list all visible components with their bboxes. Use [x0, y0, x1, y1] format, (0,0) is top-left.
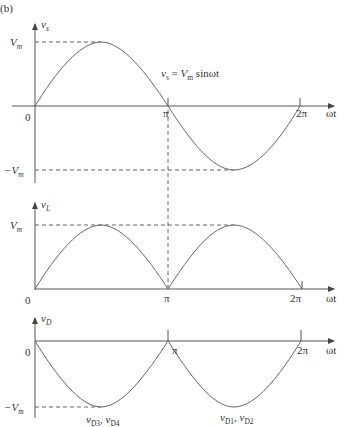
vl-rectified-curve	[35, 225, 302, 289]
x-axis-label: ωt	[326, 344, 336, 356]
rectifier-waveform-diagram: (b) vs Vm −Vm 0 π 2π ωt vs = Vm sinωt vL…	[0, 0, 344, 427]
2pi-label: 2π	[297, 344, 309, 356]
2pi-label: 2π	[290, 292, 302, 304]
pi-label: π	[163, 107, 169, 119]
x-axis-label: ωt	[326, 292, 336, 304]
x-axis-label: ωt	[326, 107, 336, 119]
y-axis-label: vs	[41, 18, 49, 33]
vd-diode-curve	[35, 341, 301, 407]
panel-load-voltage: vL Vm 0 π 2π ωt	[10, 198, 336, 306]
y-axis-label: vL	[41, 198, 50, 213]
figure-label: (b)	[0, 2, 13, 15]
panel-diode-voltage: vD 0 π 2π ωt −Vm vD3, vD4 vD1, vD2	[4, 312, 336, 427]
y-axis-label: vD	[41, 312, 52, 327]
neg-vm-label: −Vm	[4, 164, 24, 179]
origin-label: 0	[25, 111, 31, 123]
vm-label: Vm	[10, 219, 23, 234]
neg-vm-label: −Vm	[4, 401, 24, 416]
2pi-label: 2π	[296, 107, 308, 119]
annotation-vd1-vd2: vD1, vD2	[220, 411, 254, 426]
equation-label: vs = Vm sinωt	[161, 67, 219, 82]
pi-label: π	[164, 292, 170, 304]
origin-label: 0	[25, 346, 31, 358]
origin-label: 0	[25, 294, 31, 306]
panel-source-voltage: vs Vm −Vm 0 π 2π ωt vs = Vm sinωt	[4, 18, 336, 288]
pi-label: π	[172, 344, 178, 356]
annotation-vd3-vd4: vD3, vD4	[86, 413, 120, 427]
vm-label: Vm	[10, 36, 23, 51]
